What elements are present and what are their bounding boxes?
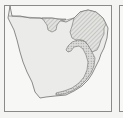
southern-africa-map — [0, 0, 123, 118]
